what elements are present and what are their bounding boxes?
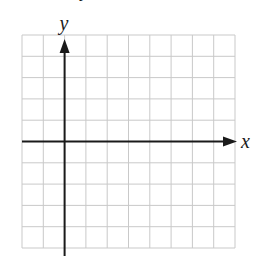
y-axis-label: y xyxy=(58,12,69,35)
cropped-title-fragment: y xyxy=(79,0,90,1)
y-axis-arrow-icon xyxy=(60,39,70,53)
x-axis-label: x xyxy=(240,130,250,152)
coordinate-plane: x y y xyxy=(0,0,262,256)
